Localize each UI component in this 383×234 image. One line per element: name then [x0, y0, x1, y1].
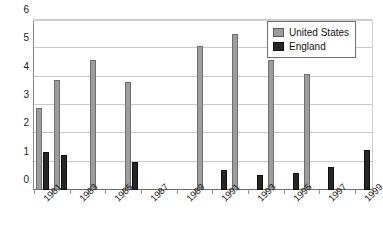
bar-united-states-1981[interactable]	[36, 108, 42, 190]
bar-group-1983	[70, 20, 88, 190]
bar-group-1992	[230, 20, 248, 190]
bar-united-states-1986[interactable]	[125, 82, 131, 190]
bar-united-states-1990[interactable]	[197, 46, 203, 191]
y-tick-label-1: 1	[3, 147, 29, 157]
bar-england-1999[interactable]	[364, 150, 370, 190]
legend-item-england[interactable]: England	[273, 39, 349, 53]
x-axis-labels: 1981198319851987198919911993199519971999	[0, 190, 383, 234]
bar-group-1989	[177, 20, 195, 190]
bar-united-states-1996[interactable]	[304, 74, 310, 190]
bar-united-states-1992[interactable]	[232, 34, 238, 190]
bar-england-1986[interactable]	[132, 162, 138, 190]
y-tick-label-2: 2	[3, 118, 29, 128]
bar-group-1981	[34, 20, 52, 190]
bar-united-states-1984[interactable]	[90, 60, 96, 190]
bar-group-1993	[248, 20, 266, 190]
legend-label: England	[289, 41, 326, 52]
bar-chart: 0123456 19811983198519871989199119931995…	[0, 0, 383, 234]
legend-label: United States	[289, 27, 349, 38]
bar-group-1999	[355, 20, 373, 190]
legend-item-united-states[interactable]: United States	[273, 25, 349, 39]
bar-group-1990	[195, 20, 213, 190]
bar-united-states-1994[interactable]	[268, 60, 274, 190]
bar-group-1988	[159, 20, 177, 190]
chart-legend[interactable]: United StatesEngland	[267, 21, 356, 58]
y-tick-label-3: 3	[3, 90, 29, 100]
bar-england-1981[interactable]	[43, 152, 49, 190]
bar-group-1986	[123, 20, 141, 190]
y-tick-label-5: 5	[3, 33, 29, 43]
england-swatch-icon	[273, 42, 284, 51]
y-axis: 0123456	[0, 20, 29, 190]
y-tick-label-0: 0	[3, 175, 29, 185]
us-swatch-icon	[273, 28, 284, 37]
bar-group-1987	[141, 20, 159, 190]
bar-group-1991	[212, 20, 230, 190]
bar-united-states-1982[interactable]	[54, 80, 60, 191]
bar-england-1982[interactable]	[61, 155, 67, 190]
y-tick-label-4: 4	[3, 62, 29, 72]
bar-group-1984	[88, 20, 106, 190]
bar-group-1985	[105, 20, 123, 190]
bar-group-1982	[52, 20, 70, 190]
y-tick-label-6: 6	[3, 5, 29, 15]
